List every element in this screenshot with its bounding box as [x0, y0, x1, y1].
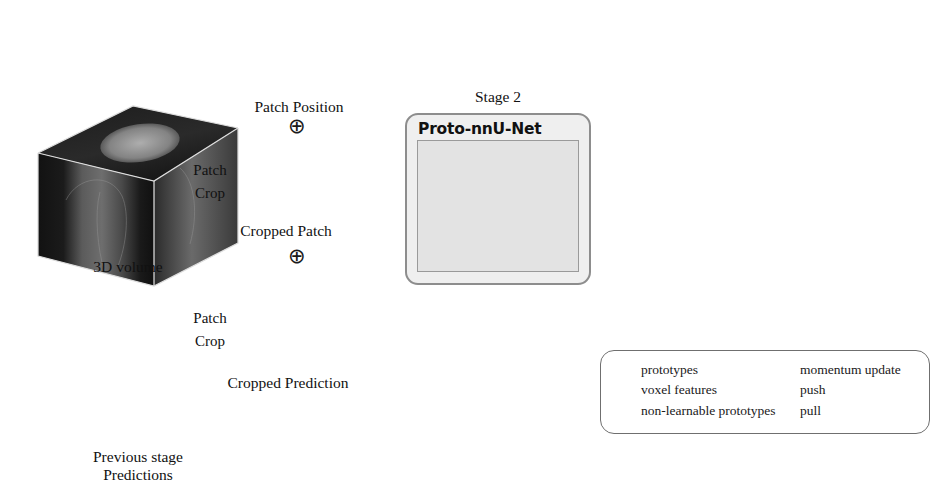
legend-label-momentum-update: momentum update	[800, 362, 901, 378]
patch-crop-top-line1: Patch	[165, 163, 255, 179]
patch-crop-bottom-line1: Patch	[165, 311, 255, 327]
cropped-prediction-label: Cropped Prediction	[196, 374, 380, 391]
legend-label-non-learnable-prototypes: non-learnable prototypes	[641, 403, 776, 419]
plus-symbol-bottom: ⊕	[288, 246, 306, 267]
patch-crop-top-line2: Crop	[165, 186, 255, 202]
previous-predictions-label-line2: Predictions	[48, 466, 228, 483]
cropped-patch-label: Cropped Patch	[206, 222, 366, 239]
unet-inner-box	[417, 140, 579, 272]
patch-crop-bottom-line2: Crop	[165, 334, 255, 350]
model-name-label: Proto-nnU-Net	[418, 120, 542, 138]
previous-predictions-label-line1: Previous stage	[48, 448, 228, 465]
patch-position-label: Patch Position	[219, 98, 379, 115]
legend-label-push: push	[800, 382, 826, 398]
legend-label-prototypes: prototypes	[641, 362, 698, 378]
volume-label: 3D volume	[48, 258, 208, 275]
stage2-title: Stage 2	[448, 88, 548, 105]
legend-label-pull: pull	[800, 403, 821, 419]
plus-symbol-top: ⊕	[288, 116, 306, 137]
legend-label-voxel-features: voxel features	[641, 382, 717, 398]
